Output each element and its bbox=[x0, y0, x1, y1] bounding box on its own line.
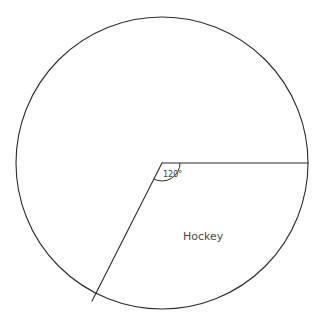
sector-label-hockey: Hockey bbox=[183, 230, 224, 243]
pie-chart-svg: 120° Hockey bbox=[0, 0, 321, 334]
pie-sector-diagram: 120° Hockey bbox=[0, 0, 321, 334]
angle-label: 120° bbox=[163, 170, 182, 179]
